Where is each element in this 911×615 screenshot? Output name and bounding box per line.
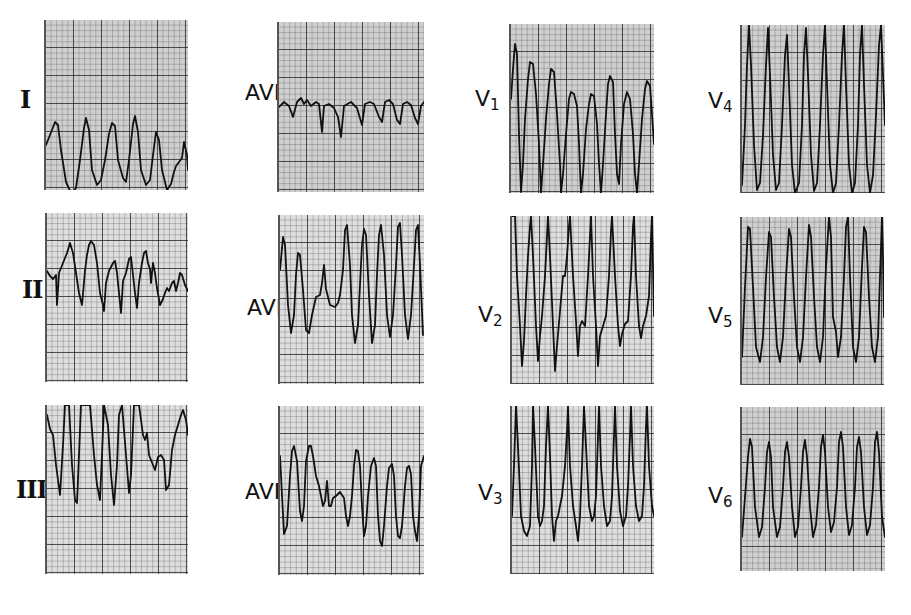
lead-name: III	[16, 475, 47, 504]
lead-label: V1	[475, 88, 500, 113]
ecg-trace	[47, 213, 188, 382]
ecg-grid-panel	[44, 20, 188, 190]
lead-label: I	[20, 88, 30, 112]
ecg-trace	[280, 215, 424, 384]
ecg-trace	[742, 25, 885, 193]
lead-subscript: 6	[723, 493, 733, 511]
lead-name: V	[478, 480, 493, 505]
lead-name: I	[20, 85, 30, 114]
ecg-trace	[46, 20, 188, 190]
lead-name: II	[22, 275, 42, 304]
ecg-grid-panel	[510, 406, 654, 574]
ecg-trace	[742, 407, 885, 571]
lead-subscript: 2	[493, 312, 503, 330]
ecg-grid-panel	[277, 22, 424, 192]
lead-name: V	[708, 483, 723, 508]
lead-label: V2	[478, 304, 503, 329]
lead-label: V4	[708, 90, 733, 115]
lead-subscript: 1	[490, 96, 500, 114]
lead-name: V	[478, 302, 493, 327]
lead-label: V3	[478, 482, 503, 507]
ecg-trace	[511, 24, 654, 193]
ecg-trace	[280, 406, 424, 575]
ecg-grid-panel	[278, 215, 424, 384]
ecg-trace	[279, 22, 424, 192]
lead-name: V	[475, 86, 490, 111]
lead-label: III	[16, 478, 47, 502]
lead-label: V6	[708, 485, 733, 510]
ecg-grid-panel	[740, 217, 884, 385]
ecg-grid-panel	[740, 25, 885, 193]
ecg-trace	[742, 217, 884, 385]
lead-subscript: 5	[723, 313, 733, 331]
ecg-grid-panel	[510, 216, 654, 384]
ecg-grid-panel	[45, 405, 188, 574]
ecg-grid-panel	[45, 213, 188, 382]
lead-subscript: 3	[493, 490, 503, 508]
lead-name: V	[708, 303, 723, 328]
ecg-grid-panel	[740, 407, 885, 571]
lead-subscript: 4	[723, 98, 733, 116]
lead-label: V5	[708, 305, 733, 330]
lead-label: II	[22, 278, 42, 302]
ecg-trace	[512, 216, 654, 384]
ecg-trace	[512, 406, 654, 574]
ecg-grid-panel	[278, 406, 424, 575]
ecg-grid-panel	[509, 24, 654, 193]
ecg-trace	[47, 405, 188, 574]
lead-name: V	[708, 88, 723, 113]
